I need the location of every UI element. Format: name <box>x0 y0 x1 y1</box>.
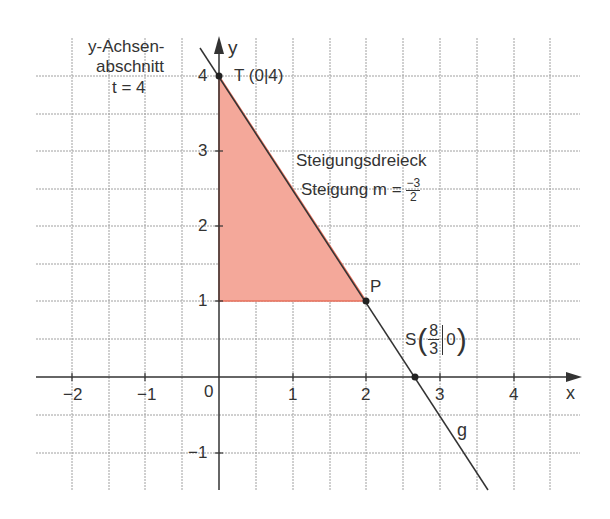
x-tick-2: 2 <box>361 386 370 403</box>
slope-label: Steigung m = −3 2 <box>301 177 420 204</box>
triangle-title: Steigungsdreieck <box>296 152 426 169</box>
point-S-prefix: S <box>405 331 416 348</box>
slope-numerator: −3 <box>406 177 420 191</box>
point-T-label: T (0|4) <box>234 67 283 84</box>
y-axis-label: y <box>228 38 238 57</box>
slope-denominator: 2 <box>406 191 420 204</box>
y-intercept-label-line1: y-Achsen- <box>88 38 165 55</box>
point-S-y: 0 <box>446 331 455 348</box>
x-axis-label: x <box>566 384 575 402</box>
x-tick-3: 3 <box>435 386 444 403</box>
coordinate-plane <box>0 0 610 519</box>
point-S-numerator: 8 <box>428 322 439 340</box>
y-intercept-label-line3: t = 4 <box>112 79 146 96</box>
x-tick-neg1: −1 <box>137 386 156 403</box>
y-tick-1: 1 <box>198 292 207 309</box>
x-tick-1: 1 <box>288 386 297 403</box>
y-tick-4: 4 <box>198 67 207 84</box>
y-tick-2: 2 <box>198 217 207 234</box>
y-intercept-label-line2: abschnitt <box>96 58 164 75</box>
x-tick-neg2: −2 <box>63 386 82 403</box>
point-P-label: P <box>370 278 381 295</box>
point-S-fraction: 8 3 <box>428 322 439 357</box>
line-g-label: g <box>457 421 467 439</box>
point-S <box>412 374 419 381</box>
point-S-label: S ( 8 3 0 ) <box>405 322 467 357</box>
point-S-denominator: 3 <box>428 340 439 357</box>
point-T <box>216 73 223 80</box>
point-P <box>363 298 370 305</box>
x-tick-4: 4 <box>509 386 518 403</box>
y-tick-3: 3 <box>198 142 207 159</box>
x-axis-arrow <box>566 372 582 382</box>
slope-fraction: −3 2 <box>406 177 420 204</box>
y-tick-neg1: −1 <box>188 444 207 461</box>
y-axis-arrow <box>214 36 224 54</box>
slope-text: Steigung m = <box>301 180 402 199</box>
x-tick-0: 0 <box>204 383 213 400</box>
